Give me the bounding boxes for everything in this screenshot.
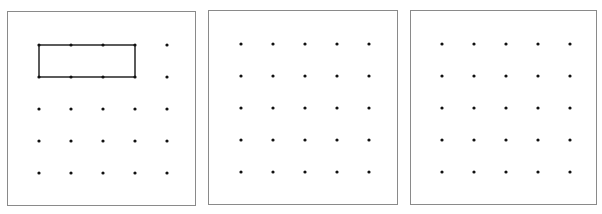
grid-dot <box>504 74 507 77</box>
grid-dot <box>568 138 571 141</box>
grid-dot <box>536 106 539 109</box>
grid-dot <box>69 43 72 46</box>
grid-dot <box>504 42 507 45</box>
grid-dot <box>101 43 104 46</box>
grid-dot <box>133 43 136 46</box>
grid-dot <box>536 42 539 45</box>
grid-dot <box>536 170 539 173</box>
grid-dot <box>303 170 306 173</box>
grid-dot <box>367 170 370 173</box>
grid-dot <box>536 74 539 77</box>
grid-dot <box>239 42 242 45</box>
grid-dot <box>335 74 338 77</box>
grid-dot <box>37 43 40 46</box>
grid-dot <box>69 75 72 78</box>
grid-dot <box>165 139 168 142</box>
grid-dot <box>367 138 370 141</box>
grid-dot <box>568 42 571 45</box>
grid-dot <box>335 170 338 173</box>
grid-dot <box>101 171 104 174</box>
grid-dot <box>37 107 40 110</box>
grid-dot <box>239 74 242 77</box>
grid-dot <box>472 74 475 77</box>
geoboard-panel-3 <box>410 10 597 205</box>
grid-dot <box>335 106 338 109</box>
grid-dot <box>271 170 274 173</box>
grid-dot <box>165 107 168 110</box>
grid-dot <box>303 138 306 141</box>
grid-dot <box>367 42 370 45</box>
grid-dot <box>133 107 136 110</box>
grid-dot <box>472 106 475 109</box>
dot-grid <box>209 11 397 204</box>
grid-dot <box>536 138 539 141</box>
dot-grid <box>411 11 596 204</box>
grid-dot <box>239 138 242 141</box>
grid-dot <box>440 170 443 173</box>
grid-dot <box>472 138 475 141</box>
grid-dot <box>101 139 104 142</box>
grid-dot <box>239 170 242 173</box>
grid-dot <box>303 74 306 77</box>
geoboard-panel-2 <box>208 10 398 205</box>
grid-dot <box>367 106 370 109</box>
grid-dot <box>69 107 72 110</box>
grid-dot <box>165 75 168 78</box>
grid-dot <box>101 75 104 78</box>
geoboard-panel-1 <box>7 11 196 206</box>
grid-dot <box>271 138 274 141</box>
grid-dot <box>440 74 443 77</box>
grid-dot <box>69 171 72 174</box>
grid-dot <box>37 171 40 174</box>
rectangle-shape <box>39 45 135 77</box>
grid-dot <box>271 42 274 45</box>
grid-dot <box>367 74 370 77</box>
grid-dot <box>303 106 306 109</box>
grid-dot <box>504 170 507 173</box>
grid-dot <box>568 106 571 109</box>
grid-dot <box>37 75 40 78</box>
grid-dot <box>440 42 443 45</box>
grid-dot <box>165 43 168 46</box>
grid-dot <box>440 138 443 141</box>
grid-dot <box>37 139 40 142</box>
grid-dot <box>133 75 136 78</box>
grid-dot <box>271 106 274 109</box>
grid-dot <box>133 171 136 174</box>
grid-dot <box>504 138 507 141</box>
grid-dot <box>303 42 306 45</box>
grid-dot <box>335 42 338 45</box>
dot-grid <box>8 12 195 205</box>
grid-dot <box>568 74 571 77</box>
grid-dot <box>239 106 242 109</box>
grid-dot <box>165 171 168 174</box>
grid-dot <box>472 42 475 45</box>
grid-dot <box>335 138 338 141</box>
grid-dot <box>472 170 475 173</box>
grid-dot <box>440 106 443 109</box>
grid-dot <box>133 139 136 142</box>
grid-dot <box>69 139 72 142</box>
grid-dot <box>101 107 104 110</box>
grid-dot <box>568 170 571 173</box>
grid-dot <box>271 74 274 77</box>
grid-dot <box>504 106 507 109</box>
